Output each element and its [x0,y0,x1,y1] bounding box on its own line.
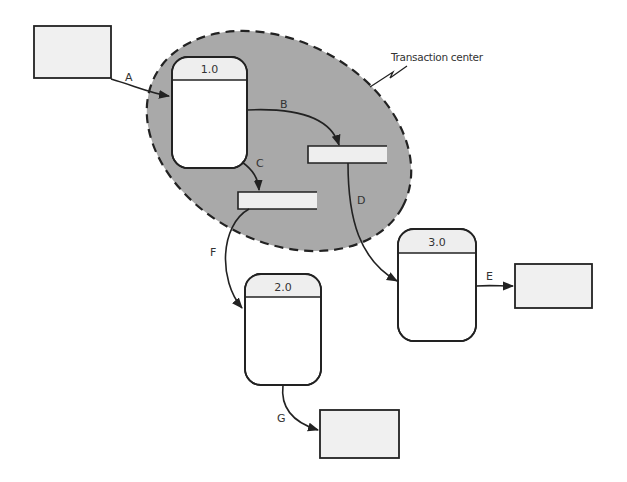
flow-e[interactable]: E [476,270,513,286]
process-2-0[interactable]: 2.0 [245,274,321,385]
flow-label-e: E [486,270,493,283]
external-entity-sink-g[interactable] [320,410,399,458]
flow-label-d: D [357,194,365,207]
flow-label-b: B [280,98,288,111]
external-entity-source[interactable] [34,26,111,78]
zigzag-pointer-icon [370,66,407,87]
flow-label-g: G [277,412,286,425]
flow-label-c: C [256,157,264,170]
process-1-0[interactable]: 1.0 [172,57,247,168]
flow-label-a: A [125,71,133,84]
dfd-canvas: Transaction center A 1.0 B C D [0,0,627,482]
annotation-label: Transaction center [390,51,484,63]
process-3-0[interactable]: 3.0 [398,229,476,341]
transaction-center-annotation: Transaction center [370,51,484,87]
data-store-c[interactable] [238,192,317,209]
flow-label-f: F [210,246,216,259]
external-entity-sink-e[interactable] [515,264,592,308]
data-store-b[interactable] [308,146,387,163]
flow-g[interactable]: G [277,385,318,430]
process-id: 3.0 [428,236,446,249]
process-id: 2.0 [274,281,292,294]
process-id: 1.0 [201,63,219,76]
